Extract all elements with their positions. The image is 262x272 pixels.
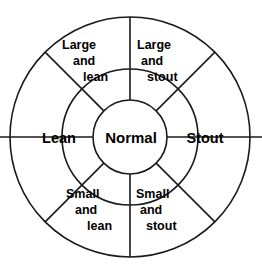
divider-northeast xyxy=(156,52,215,111)
inner-ring-circle xyxy=(93,100,167,174)
wheel-diagram-svg xyxy=(0,0,262,272)
divider-northwest xyxy=(45,52,104,111)
body-type-wheel-figure: Normal Lean Stout Large and lean Large a… xyxy=(0,0,262,272)
divider-southwest xyxy=(45,163,104,222)
divider-southeast xyxy=(156,163,215,222)
